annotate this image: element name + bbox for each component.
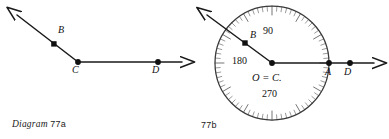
protractor-minor-tick — [232, 23, 236, 27]
protractor-minor-tick — [239, 106, 242, 110]
protractor-major-tick — [223, 35, 231, 40]
protractor-major-tick — [296, 105, 301, 113]
protractor-minor-tick — [309, 23, 313, 27]
protractor-minor-tick — [216, 72, 221, 73]
protractor-major-tick — [244, 105, 249, 113]
point-b-b — [242, 40, 247, 45]
protractor-minor-tick — [285, 113, 286, 118]
point-label-c-a: C — [72, 65, 79, 75]
protractor-minor-tick — [218, 81, 223, 83]
point-o-b — [269, 60, 275, 66]
protractor-minor-tick — [262, 7, 263, 12]
protractor-major-tick — [244, 14, 249, 22]
point-label-d-a: D — [152, 65, 159, 75]
protractor-minor-tick — [305, 19, 308, 23]
caption-77b: 77b — [201, 120, 217, 130]
protractor-minor-tick — [225, 93, 229, 96]
protractor-minor-tick — [323, 53, 328, 54]
protractor-major-tick — [314, 87, 322, 92]
protractor-major-tick — [314, 35, 322, 40]
caption-77a-number: 77a — [50, 119, 66, 129]
protractor-minor-tick — [319, 85, 324, 87]
protractor-minor-tick — [220, 85, 225, 87]
caption-77b-number: 77b — [201, 120, 217, 130]
protractor-minor-tick — [228, 96, 232, 99]
protractor-minor-tick — [302, 106, 305, 110]
protractor-minor-tick — [239, 16, 242, 20]
protractor-minor-tick — [235, 103, 238, 107]
protractor-major-tick — [223, 87, 231, 92]
protractor-minor-tick — [312, 96, 316, 99]
ray-cb-a — [17, 15, 78, 62]
protractor-minor-tick — [321, 44, 326, 46]
figure-root: B C D 90 180 270 O = C. B A D Diagram 77… — [0, 0, 389, 139]
caption-77a-word: Diagram — [12, 119, 48, 129]
protractor-minor-tick — [302, 16, 305, 20]
degree-label-90: 90 — [263, 26, 273, 36]
protractor-minor-tick — [248, 11, 250, 16]
protractor-minor-tick — [232, 100, 236, 104]
protractor-major-tick — [296, 14, 301, 22]
protractor-minor-tick — [319, 39, 324, 41]
protractor-minor-tick — [294, 11, 296, 16]
protractor-minor-tick — [217, 76, 222, 77]
protractor-minor-tick — [294, 110, 296, 115]
protractor-minor-tick — [228, 26, 232, 29]
diagram-77a-group — [17, 15, 182, 65]
degree-label-180: 180 — [232, 56, 247, 66]
caption-77a: Diagram 77a — [12, 119, 66, 129]
point-label-b-a: B — [58, 25, 64, 35]
protractor-minor-tick — [262, 114, 263, 119]
point-label-a-b: A — [325, 67, 331, 77]
protractor-minor-tick — [220, 39, 225, 41]
protractor-minor-tick — [322, 48, 327, 49]
protractor-minor-tick — [312, 26, 316, 29]
protractor-minor-tick — [218, 44, 223, 46]
point-label-b-b: B — [250, 30, 256, 40]
protractor-minor-tick — [253, 112, 255, 117]
point-label-d-b: D — [344, 67, 351, 77]
protractor-minor-tick — [248, 110, 250, 115]
protractor-minor-tick — [253, 9, 255, 14]
center-label-o-equals-c: O = C. — [252, 73, 282, 84]
point-b-a — [51, 41, 56, 46]
protractor-minor-tick — [315, 30, 319, 33]
protractor-minor-tick — [321, 81, 326, 83]
protractor-minor-tick — [285, 8, 286, 13]
protractor-minor-tick — [281, 7, 282, 12]
protractor-minor-tick — [290, 9, 292, 14]
protractor-minor-tick — [235, 19, 238, 23]
protractor-minor-tick — [309, 100, 313, 104]
degree-label-270: 270 — [262, 89, 277, 99]
protractor-minor-tick — [290, 112, 292, 117]
protractor-minor-tick — [281, 114, 282, 119]
protractor-minor-tick — [305, 103, 308, 107]
protractor-minor-tick — [257, 8, 258, 13]
protractor-minor-tick — [217, 48, 222, 49]
protractor-minor-tick — [315, 93, 319, 96]
protractor-minor-tick — [257, 113, 258, 118]
protractor-minor-tick — [216, 53, 221, 54]
